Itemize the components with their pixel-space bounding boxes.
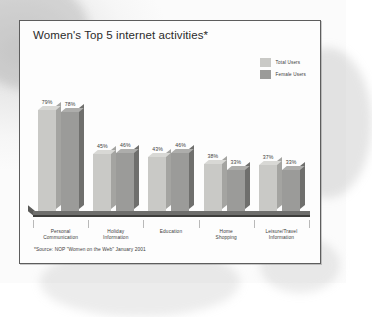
bar-group-bars: 45%46% <box>93 77 134 213</box>
bar-total-users[interactable]: 79% <box>38 110 56 213</box>
axis-tick <box>199 220 200 228</box>
axis-tick <box>254 220 255 228</box>
bar-total-users[interactable]: 37% <box>259 165 277 213</box>
bar-front-face <box>61 112 79 213</box>
bar-value-label: 46% <box>175 142 186 148</box>
category-label: Education <box>143 229 198 235</box>
chart-card: Women's Top 5 internet activities* Total… <box>19 20 321 264</box>
legend-item-total-users: Total Users <box>260 58 306 67</box>
category-label-line: Information <box>88 235 143 241</box>
bar-front-face <box>171 153 189 213</box>
source-footnote: *Source: NOP "Women on the Web" January … <box>34 247 146 252</box>
bar-total-users[interactable]: 38% <box>204 164 222 213</box>
bar-total-users[interactable]: 43% <box>148 157 166 213</box>
category-label: HomeShopping <box>199 229 254 242</box>
category-label: HolidayInformation <box>88 229 143 242</box>
bar-group: 38%33% <box>204 77 251 213</box>
axis-tick <box>88 220 89 228</box>
bar-value-label: 78% <box>65 101 76 107</box>
bar-side-face <box>134 145 139 209</box>
category-label: PersonalCommunication <box>33 229 88 242</box>
bar-front-face <box>148 157 166 213</box>
bar-front-face <box>204 164 222 213</box>
bar-side-face <box>79 104 84 209</box>
bar-front-face <box>93 154 111 213</box>
bar-female-users[interactable]: 46% <box>116 153 134 213</box>
axis-floor-slab <box>33 211 310 220</box>
category-label-line: Communication <box>33 235 88 241</box>
bar-group-bars: 79%78% <box>38 77 79 213</box>
bar-female-users[interactable]: 78% <box>61 112 79 213</box>
bar-plot-area: 79%78%45%46%43%46%38%33%37%33% <box>33 77 309 213</box>
category-label-line: Shopping <box>199 235 254 241</box>
bar-front-face <box>259 165 277 213</box>
chart-legend: Total UsersFemale Users <box>260 58 306 79</box>
axis-floor-front <box>33 215 310 217</box>
bar-side-face <box>189 145 194 209</box>
bar-group-bars: 37%33% <box>259 77 300 213</box>
bar-value-label: 45% <box>97 143 108 149</box>
bar-total-users[interactable]: 45% <box>93 154 111 213</box>
legend-swatch-icon <box>260 58 271 67</box>
bar-value-label: 43% <box>152 146 163 152</box>
axis-tick <box>309 220 310 228</box>
category-label-line: Information <box>254 235 309 241</box>
bar-value-label: 38% <box>207 153 218 159</box>
bar-group-bars: 43%46% <box>148 77 189 213</box>
axis-tick <box>33 220 34 228</box>
bar-value-label: 33% <box>230 159 241 165</box>
chart-title: Women's Top 5 internet activities* <box>33 29 208 41</box>
bar-female-users[interactable]: 33% <box>227 170 245 213</box>
bar-front-face <box>227 170 245 213</box>
bar-group: 79%78% <box>38 77 85 213</box>
bar-value-label: 33% <box>286 159 297 165</box>
bar-group: 43%46% <box>148 77 195 213</box>
bar-group: 37%33% <box>259 77 306 213</box>
bar-front-face <box>116 153 134 213</box>
bar-front-face <box>38 110 56 213</box>
category-label-line: Education <box>143 229 198 235</box>
bar-female-users[interactable]: 33% <box>282 170 300 213</box>
axis-tick <box>143 220 144 228</box>
bar-group-bars: 38%33% <box>204 77 245 213</box>
legend-label: Total Users <box>276 60 301 65</box>
bar-value-label: 79% <box>42 99 53 105</box>
bar-value-label: 37% <box>263 154 274 160</box>
bar-female-users[interactable]: 46% <box>171 153 189 213</box>
bar-group: 45%46% <box>93 77 140 213</box>
category-axis: PersonalCommunicationHolidayInformationE… <box>33 220 310 250</box>
bar-value-label: 46% <box>120 142 131 148</box>
bar-front-face <box>282 170 300 213</box>
category-label: Leisure/TravelInformation <box>254 229 309 242</box>
